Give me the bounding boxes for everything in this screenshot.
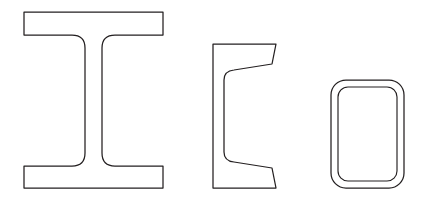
rectangular-tube-shape <box>331 80 404 188</box>
structural-profiles-figure <box>0 0 431 200</box>
profiles-canvas <box>0 0 431 200</box>
rectangular-tube-inner-wall <box>338 87 397 181</box>
